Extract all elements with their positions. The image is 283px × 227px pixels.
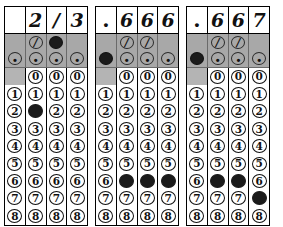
digit-bubble[interactable]: 5	[49, 157, 64, 171]
digit-bubble[interactable]: 0	[28, 70, 43, 84]
digit-cell[interactable]: 4	[5, 138, 26, 155]
digit-bubble[interactable]: 1	[70, 87, 85, 101]
decimal-point-cell[interactable]: .	[208, 50, 229, 67]
digit-bubble[interactable]: 3	[98, 122, 113, 136]
digit-cell[interactable]: 4	[138, 138, 159, 155]
digit-bubble[interactable]: 0	[231, 70, 246, 84]
digit-bubble[interactable]: 7	[189, 191, 204, 205]
digit-cell[interactable]: 6	[138, 172, 159, 189]
digit-bubble[interactable]: 7	[161, 191, 176, 205]
digit-cell[interactable]: 2	[117, 103, 138, 120]
digit-cell[interactable]: 7	[208, 190, 229, 207]
decimal-point-bubble[interactable]: .	[29, 52, 43, 65]
digit-bubble[interactable]: 5	[7, 157, 22, 171]
digit-cell[interactable]: 5	[138, 155, 159, 172]
digit-cell[interactable]: 2	[158, 103, 178, 120]
decimal-point-cell[interactable]: .	[5, 50, 26, 67]
digit-bubble[interactable]: 2	[49, 104, 64, 118]
digit-bubble[interactable]: 1	[98, 87, 113, 101]
digit-bubble[interactable]: 1	[161, 87, 176, 101]
digit-bubble-filled[interactable]: 6	[231, 174, 246, 188]
digit-cell[interactable]: 8	[26, 207, 47, 224]
digit-bubble[interactable]: 2	[140, 104, 155, 118]
digit-cell[interactable]: 1	[26, 85, 47, 102]
digit-cell[interactable]: 6	[158, 172, 178, 189]
digit-bubble[interactable]: 3	[161, 122, 176, 136]
digit-cell[interactable]: 1	[138, 85, 159, 102]
digit-cell[interactable]: 5	[5, 155, 26, 172]
digit-cell[interactable]: 5	[67, 155, 87, 172]
digit-cell[interactable]: 3	[26, 120, 47, 137]
digit-bubble[interactable]: 5	[252, 157, 267, 171]
digit-bubble[interactable]: 1	[7, 87, 22, 101]
decimal-point-bubble[interactable]: .	[161, 52, 175, 65]
digit-cell[interactable]: 4	[187, 138, 208, 155]
digit-bubble[interactable]: 5	[28, 157, 43, 171]
digit-cell[interactable]: 0	[67, 68, 87, 85]
digit-bubble[interactable]: 8	[252, 209, 267, 223]
digit-cell[interactable]: 6	[96, 172, 117, 189]
decimal-point-bubble[interactable]: .	[231, 52, 245, 65]
digit-bubble[interactable]: 1	[210, 87, 225, 101]
digit-bubble[interactable]: 6	[189, 174, 204, 188]
digit-cell[interactable]: 2	[138, 103, 159, 120]
digit-cell[interactable]: 4	[96, 138, 117, 155]
digit-bubble[interactable]: 4	[28, 139, 43, 153]
digit-bubble[interactable]: 5	[161, 157, 176, 171]
digit-bubble[interactable]: 4	[140, 139, 155, 153]
decimal-point-cell[interactable]: .	[187, 50, 208, 67]
digit-cell[interactable]: 5	[208, 155, 229, 172]
digit-cell[interactable]: 6	[5, 172, 26, 189]
digit-cell[interactable]: 0	[158, 68, 178, 85]
digit-bubble[interactable]: 4	[252, 139, 267, 153]
decimal-point-cell[interactable]: .	[249, 50, 269, 67]
digit-cell[interactable]: 2	[5, 103, 26, 120]
digit-cell[interactable]: 4	[47, 138, 68, 155]
digit-bubble[interactable]: 3	[189, 122, 204, 136]
digit-cell[interactable]: 8	[229, 207, 250, 224]
digit-cell[interactable]: 8	[67, 207, 87, 224]
decimal-point-cell[interactable]: .	[67, 50, 87, 67]
digit-cell[interactable]: 5	[187, 155, 208, 172]
decimal-point-cell[interactable]: .	[158, 50, 178, 67]
digit-bubble[interactable]: 6	[28, 174, 43, 188]
digit-bubble[interactable]: 7	[231, 191, 246, 205]
digit-cell[interactable]: 6	[249, 172, 269, 189]
digit-cell[interactable]: 0	[26, 68, 47, 85]
digit-bubble[interactable]: 1	[252, 87, 267, 101]
digit-bubble[interactable]: 5	[231, 157, 246, 171]
digit-cell[interactable]: 4	[158, 138, 178, 155]
digit-cell[interactable]: 8	[47, 207, 68, 224]
digit-bubble[interactable]: 3	[210, 122, 225, 136]
decimal-point-cell[interactable]: .	[229, 50, 250, 67]
digit-cell[interactable]: 7	[96, 190, 117, 207]
digit-bubble[interactable]: 2	[210, 104, 225, 118]
digit-cell[interactable]: 1	[67, 85, 87, 102]
digit-bubble[interactable]: 0	[210, 70, 225, 84]
digit-cell[interactable]: 5	[47, 155, 68, 172]
digit-cell[interactable]: 4	[117, 138, 138, 155]
digit-bubble[interactable]: 8	[49, 209, 64, 223]
digit-bubble[interactable]: 5	[189, 157, 204, 171]
digit-bubble[interactable]: 4	[49, 139, 64, 153]
digit-bubble[interactable]: 2	[119, 104, 134, 118]
digit-cell[interactable]: 5	[229, 155, 250, 172]
digit-cell[interactable]: 4	[208, 138, 229, 155]
digit-bubble[interactable]: 4	[210, 139, 225, 153]
digit-cell[interactable]: 5	[117, 155, 138, 172]
digit-cell[interactable]: 7	[26, 190, 47, 207]
digit-bubble[interactable]: 7	[49, 191, 64, 205]
digit-bubble[interactable]: 2	[252, 104, 267, 118]
decimal-point-bubble[interactable]: .	[252, 52, 266, 65]
digit-bubble[interactable]: 7	[210, 191, 225, 205]
digit-cell[interactable]: 4	[249, 138, 269, 155]
digit-cell[interactable]: 2	[187, 103, 208, 120]
digit-cell[interactable]: 0	[229, 68, 250, 85]
digit-bubble[interactable]: 7	[70, 191, 85, 205]
digit-bubble[interactable]: 4	[7, 139, 22, 153]
digit-bubble[interactable]: 7	[98, 191, 113, 205]
digit-cell[interactable]: 5	[158, 155, 178, 172]
written-answer-cell[interactable]: 6	[138, 7, 159, 33]
digit-cell[interactable]: 3	[5, 120, 26, 137]
digit-cell[interactable]: 1	[158, 85, 178, 102]
